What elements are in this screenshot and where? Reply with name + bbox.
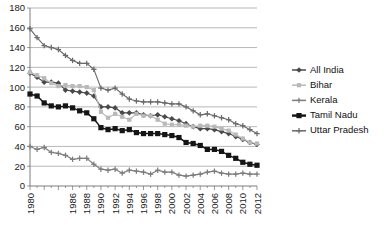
x-axis-tick-label: 1986 <box>67 193 78 214</box>
data-point-marker <box>191 141 196 146</box>
data-point-marker <box>233 156 238 161</box>
data-point-marker <box>183 104 188 109</box>
data-point-marker <box>35 73 39 77</box>
data-series-group <box>27 26 260 179</box>
data-point-marker <box>219 170 224 175</box>
data-point-marker <box>126 110 132 116</box>
data-point-marker <box>77 61 82 66</box>
data-point-marker <box>255 141 259 145</box>
data-point-marker <box>105 167 110 172</box>
data-point-marker <box>240 170 245 175</box>
data-point-marker <box>42 76 46 80</box>
x-axis-tick-label: 1998 <box>152 193 163 214</box>
data-point-marker <box>85 85 89 89</box>
legend-item-uttar-pradesh[interactable]: Uttar Pradesh <box>292 124 369 135</box>
data-point-marker <box>162 114 168 120</box>
legend-item-label: Tamil Nadu <box>310 109 358 120</box>
line-chart: 020406080100120140160180 198019861988199… <box>0 0 388 225</box>
data-point-marker <box>70 88 76 94</box>
data-point-marker <box>148 99 153 104</box>
data-point-marker <box>84 90 90 96</box>
data-point-marker <box>127 118 131 122</box>
data-point-marker <box>127 167 132 172</box>
data-point-marker <box>141 131 146 136</box>
data-point-marker <box>233 171 238 176</box>
data-point-marker <box>155 167 160 172</box>
data-point-marker <box>176 135 181 140</box>
legend-item-bihar[interactable]: Bihar <box>292 79 332 90</box>
data-point-marker <box>105 127 110 132</box>
data-point-marker <box>162 100 167 105</box>
data-point-marker <box>84 110 89 115</box>
data-point-marker <box>296 67 302 73</box>
y-axis-tick-label: 0 <box>20 180 25 191</box>
data-point-marker <box>63 83 67 87</box>
y-axis-tick-label: 100 <box>9 82 25 93</box>
data-point-marker <box>198 143 203 148</box>
data-point-marker <box>127 127 132 132</box>
data-point-marker <box>205 124 209 128</box>
y-axis-tick-label: 80 <box>14 101 25 112</box>
data-point-marker <box>205 169 210 174</box>
data-point-marker <box>148 131 153 136</box>
data-point-marker <box>70 105 75 110</box>
data-point-marker <box>177 123 181 127</box>
y-axis-tick-label: 60 <box>14 121 25 132</box>
data-point-marker <box>148 171 153 176</box>
data-point-marker <box>212 125 216 129</box>
y-axis-tick-label: 140 <box>9 42 25 53</box>
data-point-marker <box>170 123 174 127</box>
legend-item-label: Uttar Pradesh <box>310 124 369 135</box>
legend-item-tamil-nadu[interactable]: Tamil Nadu <box>292 109 358 120</box>
data-point-marker <box>28 70 32 74</box>
data-point-marker <box>296 98 301 103</box>
y-axis-tick-label: 160 <box>9 22 25 33</box>
data-point-marker <box>27 144 32 149</box>
x-axis-tick-label: 2000 <box>166 193 177 214</box>
y-axis-tick-label: 180 <box>9 2 25 13</box>
data-point-marker <box>120 128 125 133</box>
data-point-marker <box>198 171 203 176</box>
data-point-marker <box>49 45 54 50</box>
data-point-marker <box>247 127 252 132</box>
data-point-marker <box>212 168 217 173</box>
data-point-marker <box>113 126 118 131</box>
data-point-marker <box>247 171 252 176</box>
data-point-marker <box>113 112 117 116</box>
legend-item-all-india[interactable]: All India <box>292 64 345 75</box>
data-point-marker <box>134 98 139 103</box>
data-point-marker <box>190 108 195 113</box>
data-point-marker <box>227 129 231 133</box>
data-point-marker <box>56 151 61 156</box>
data-point-marker <box>92 88 96 92</box>
data-point-marker <box>296 128 301 133</box>
data-point-marker <box>248 140 252 144</box>
legend-item-label: Bihar <box>310 79 332 90</box>
data-point-marker <box>212 147 217 152</box>
x-axis-tick-label: 2012 <box>252 193 263 214</box>
y-axis-tick-label: 40 <box>14 141 25 152</box>
data-point-marker <box>169 101 174 106</box>
data-point-marker <box>219 115 224 120</box>
data-point-marker <box>141 169 146 174</box>
legend-item-label: All India <box>310 64 345 75</box>
data-point-marker <box>169 169 174 174</box>
data-point-marker <box>234 132 238 136</box>
data-point-marker <box>240 160 245 165</box>
data-point-marker <box>176 172 181 177</box>
data-point-marker <box>49 103 54 108</box>
data-point-marker <box>296 113 301 118</box>
x-axis-tick-label: 1990 <box>95 193 106 214</box>
legend-item-label: Kerala <box>310 94 338 105</box>
data-point-marker <box>70 157 75 162</box>
data-point-marker <box>98 125 103 130</box>
data-point-marker <box>190 172 195 177</box>
data-point-marker <box>120 115 124 119</box>
data-point-marker <box>134 168 139 173</box>
x-axis-tick-label: 2008 <box>223 193 234 214</box>
data-point-marker <box>226 117 231 122</box>
data-point-marker <box>205 147 210 152</box>
legend-item-kerala[interactable]: Kerala <box>292 94 338 105</box>
data-point-marker <box>212 113 217 118</box>
data-point-marker <box>233 121 238 126</box>
